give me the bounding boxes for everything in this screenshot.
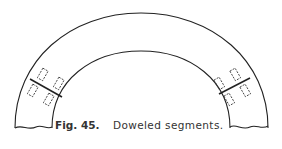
dowel-icon [53,77,64,90]
dowel-icon [224,93,235,106]
caption-text: Doweled segments. [113,119,224,131]
dowel-icon [37,68,48,81]
inner-arc [52,51,230,128]
dowel-icon [240,84,251,97]
left-break-edge [15,126,52,128]
dowel-icon [230,68,241,81]
left-joint [30,79,62,97]
right-joint [219,78,250,94]
dowel-icon [43,93,54,106]
dowel-icon [27,84,38,97]
outer-arc [15,13,268,128]
figure-caption: Fig. 45. Doweled segments. [54,119,225,131]
right-break-edge [230,126,268,128]
figure-number: Fig. 45. [55,119,100,131]
